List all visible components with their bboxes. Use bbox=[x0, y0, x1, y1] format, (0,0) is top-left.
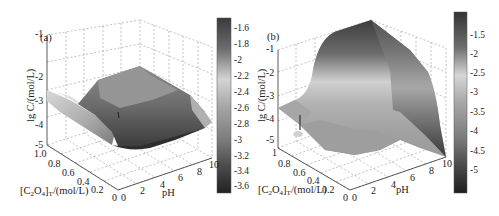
panel-a-cbar-tick: -2.8 bbox=[234, 120, 249, 130]
panel-a-xtick: 10 bbox=[209, 160, 219, 170]
panel-a-ztick: -4 bbox=[35, 120, 43, 130]
panel-a-cbar-tick: -3.6 bbox=[234, 182, 249, 192]
panel-a-cbar-tick: -2.2 bbox=[234, 72, 249, 82]
panel-b-cbar-tick: -2.5 bbox=[470, 69, 485, 79]
panel-a-cbar-tick: -2.4 bbox=[234, 88, 249, 98]
panel-a-cbar-tick: -1.6 bbox=[234, 24, 249, 34]
panel-a-ylabel: [C2O4]T/(mol/L) bbox=[20, 186, 88, 198]
panel-b-colorbar bbox=[454, 12, 467, 193]
panel-b-ylabel: [C2O4]T/(mol/L) bbox=[258, 185, 326, 197]
panel-a-ytick: 0.2 bbox=[91, 185, 104, 195]
panel-b-cbar-tick: -5 bbox=[470, 166, 478, 176]
panel-a-colorbar bbox=[217, 18, 231, 193]
panel-b-ztick: -2 bbox=[266, 68, 274, 78]
panel-a-cbar-tick: -2.6 bbox=[234, 104, 249, 114]
panel-b-plot-area bbox=[250, 0, 499, 216]
panel-a-ytick: 0 bbox=[112, 193, 117, 203]
panel-b-surface bbox=[278, 20, 446, 157]
panel-a: (a) lg C/(mol/L) -1 -2 -3 -4 -5 1.0 0.8 … bbox=[0, 0, 250, 216]
panel-a-ztick: -2 bbox=[35, 72, 43, 82]
panel-b-ztick: -4 bbox=[266, 114, 274, 124]
panel-a-ytick: 1.0 bbox=[34, 149, 47, 159]
panel-b-ytick: 1 bbox=[272, 148, 277, 158]
panel-b-cbar-tick: -4.5 bbox=[470, 147, 485, 157]
panel-a-cbar-tick: -3 bbox=[234, 136, 242, 146]
panel-a-ytick: 0.8 bbox=[48, 159, 61, 169]
panel-a-xlabel: pH bbox=[162, 188, 175, 199]
panel-a-cbar-tick: -2 bbox=[234, 56, 242, 66]
panel-b-tag: (b) bbox=[267, 32, 279, 43]
panel-a-cbar-tick: -3.2 bbox=[234, 152, 249, 162]
panel-a-ztick: -1 bbox=[35, 29, 43, 39]
panel-b-xtick: 2 bbox=[371, 186, 376, 196]
panel-b-ytick: 0.6 bbox=[293, 168, 306, 178]
panel-b-ztick: -3 bbox=[266, 91, 274, 101]
panel-b-cbar-tick: -3 bbox=[470, 88, 478, 98]
panel-a-xtick: 8 bbox=[197, 167, 202, 177]
panel-a-xtick: 2 bbox=[140, 186, 145, 196]
panel-b-ztick: -1 bbox=[266, 44, 274, 54]
panel-b-ytick: 0 bbox=[343, 193, 348, 203]
panel-b-xlabel: pH bbox=[396, 185, 409, 196]
panel-b-ztick: -5 bbox=[266, 135, 274, 145]
panel-b-ytick: 0.8 bbox=[278, 159, 291, 169]
panel-a-xtick: 0 bbox=[121, 193, 126, 203]
panel-a-xtick: 6 bbox=[178, 173, 183, 183]
panel-b-cbar-tick: -2 bbox=[470, 50, 478, 60]
panel-b-xtick: 10 bbox=[442, 159, 452, 169]
panel-a-ytick: 0.6 bbox=[62, 168, 75, 178]
panel-b: (b) lg C/(mol/L) -1 -2 -3 -4 -5 1 0.8 0.… bbox=[250, 0, 499, 216]
panel-a-cbar-tick: -1.8 bbox=[234, 40, 249, 50]
panel-b-xtick: 8 bbox=[429, 166, 434, 176]
panel-b-xtick: 0 bbox=[352, 193, 357, 203]
panel-b-cbar-tick: -3.5 bbox=[470, 108, 485, 118]
panel-b-cbar-tick: -1.5 bbox=[470, 31, 485, 41]
panel-a-ztick: -3 bbox=[35, 96, 43, 106]
panel-a-cbar-tick: -3.4 bbox=[234, 167, 249, 177]
panel-b-xtick: 6 bbox=[410, 173, 415, 183]
panel-b-cbar-tick: -4 bbox=[470, 127, 478, 137]
